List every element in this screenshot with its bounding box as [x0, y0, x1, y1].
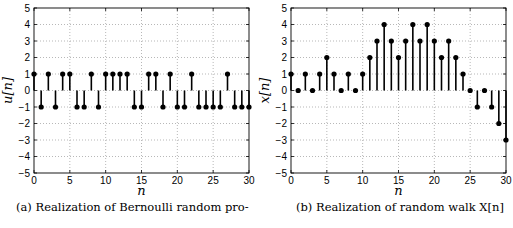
stem-marker — [110, 71, 115, 76]
stem-marker — [189, 71, 194, 76]
y-tick-label: −4 — [276, 151, 288, 162]
x-tick-label: 20 — [429, 175, 441, 186]
stem-marker — [175, 104, 180, 109]
y-tick-label: 1 — [24, 69, 30, 80]
stem-marker — [218, 104, 223, 109]
stem-marker — [489, 104, 494, 109]
y-tick-label: 4 — [24, 19, 30, 30]
stem-marker — [310, 88, 315, 93]
x-tick-label: 30 — [243, 175, 255, 186]
stem-marker — [182, 104, 187, 109]
stem-marker — [482, 88, 487, 93]
stem-marker — [60, 71, 65, 76]
y-tick-label: −4 — [19, 151, 31, 162]
stem-plot-bernoulli: 051015202530−5−4−3−2−1012345nu[n] — [0, 0, 256, 195]
stem-marker — [410, 22, 415, 27]
chart-panel-a: 051015202530−5−4−3−2−1012345nu[n] — [0, 0, 256, 195]
stem-marker — [232, 104, 237, 109]
stem-marker — [74, 104, 79, 109]
x-tick-label: 5 — [67, 175, 73, 186]
stem-marker — [288, 71, 293, 76]
y-tick-label: 3 — [281, 36, 287, 47]
stem-marker — [453, 55, 458, 60]
x-tick-label: 30 — [500, 175, 512, 186]
stem-marker — [31, 71, 36, 76]
y-tick-label: −1 — [276, 102, 288, 113]
stem-marker — [331, 71, 336, 76]
stem-marker — [139, 104, 144, 109]
stem-marker — [460, 71, 465, 76]
stem-mark — [353, 88, 358, 93]
x-tick-label: 0 — [31, 175, 37, 186]
stem-marker — [353, 88, 358, 93]
y-tick-label: 3 — [24, 36, 30, 47]
stem-marker — [296, 88, 301, 93]
y-tick-label: −5 — [19, 168, 31, 179]
x-tick-label: 25 — [465, 175, 477, 186]
stem-marker — [389, 38, 394, 43]
chart-panel-b: 051015202530−5−4−3−2−1012345nx[n] — [257, 0, 513, 195]
stem-marker — [475, 104, 480, 109]
x-tick-label: 20 — [172, 175, 184, 186]
stem-marker — [125, 71, 130, 76]
stem-marker — [160, 104, 165, 109]
stem-marker — [360, 71, 365, 76]
stem-marker — [503, 137, 508, 142]
stem-mark — [482, 88, 487, 93]
stem-marker — [425, 22, 430, 27]
stem-marker — [168, 71, 173, 76]
stem-marker — [196, 104, 201, 109]
stem-mark — [339, 88, 344, 93]
stem-marker — [246, 104, 251, 109]
stem-marker — [346, 71, 351, 76]
x-tick-label: 0 — [288, 175, 294, 186]
stem-marker — [239, 104, 244, 109]
y-tick-label: −3 — [276, 135, 288, 146]
stem-marker — [132, 104, 137, 109]
stem-marker — [146, 71, 151, 76]
x-tick-label: 10 — [357, 175, 369, 186]
stem-marker — [439, 55, 444, 60]
stem-marker — [153, 71, 158, 76]
stem-marker — [367, 55, 372, 60]
y-axis-label: u[n] — [0, 76, 15, 104]
y-tick-label: 2 — [281, 52, 287, 63]
stem-marker — [339, 88, 344, 93]
stem-marker — [96, 104, 101, 109]
y-tick-label: −3 — [19, 135, 31, 146]
stem-marker — [374, 38, 379, 43]
y-axis-label: x[n] — [257, 77, 272, 104]
caption-a: (a) Realization of Bernoulli random pro- — [16, 200, 249, 214]
y-tick-label: 5 — [281, 3, 287, 14]
stem-marker — [103, 71, 108, 76]
y-tick-label: 4 — [281, 19, 287, 30]
y-tick-label: 0 — [281, 85, 287, 96]
stem-marker — [417, 38, 422, 43]
stem-marker — [82, 104, 87, 109]
stem-mark — [310, 88, 315, 93]
caption-b: (b) Realization of random walk X[n] — [296, 200, 504, 214]
stem-marker — [211, 104, 216, 109]
stem-marker — [432, 38, 437, 43]
stem-marker — [396, 55, 401, 60]
stem-marker — [446, 38, 451, 43]
y-tick-label: 2 — [24, 52, 30, 63]
stem-marker — [324, 55, 329, 60]
y-tick-label: 1 — [281, 69, 287, 80]
stem-marker — [225, 71, 230, 76]
stem-marker — [203, 104, 208, 109]
x-tick-label: 5 — [324, 175, 330, 186]
stem-marker — [403, 38, 408, 43]
stem-marker — [496, 121, 501, 126]
x-tick-label: 25 — [208, 175, 220, 186]
stem-marker — [46, 71, 51, 76]
stem-marker — [303, 71, 308, 76]
stem-marker — [67, 71, 72, 76]
stem-marker — [468, 88, 473, 93]
stem-marker — [53, 104, 58, 109]
y-tick-label: 5 — [24, 3, 30, 14]
x-tick-label: 10 — [100, 175, 112, 186]
y-tick-label: −5 — [276, 168, 288, 179]
y-tick-label: 0 — [24, 85, 30, 96]
stem-mark — [296, 88, 301, 93]
